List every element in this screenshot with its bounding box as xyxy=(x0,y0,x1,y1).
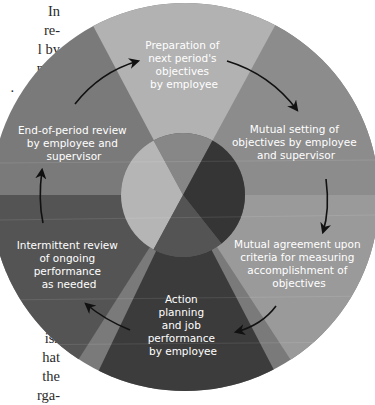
step-label-prep: Preparation of next period's objectives … xyxy=(145,39,222,90)
